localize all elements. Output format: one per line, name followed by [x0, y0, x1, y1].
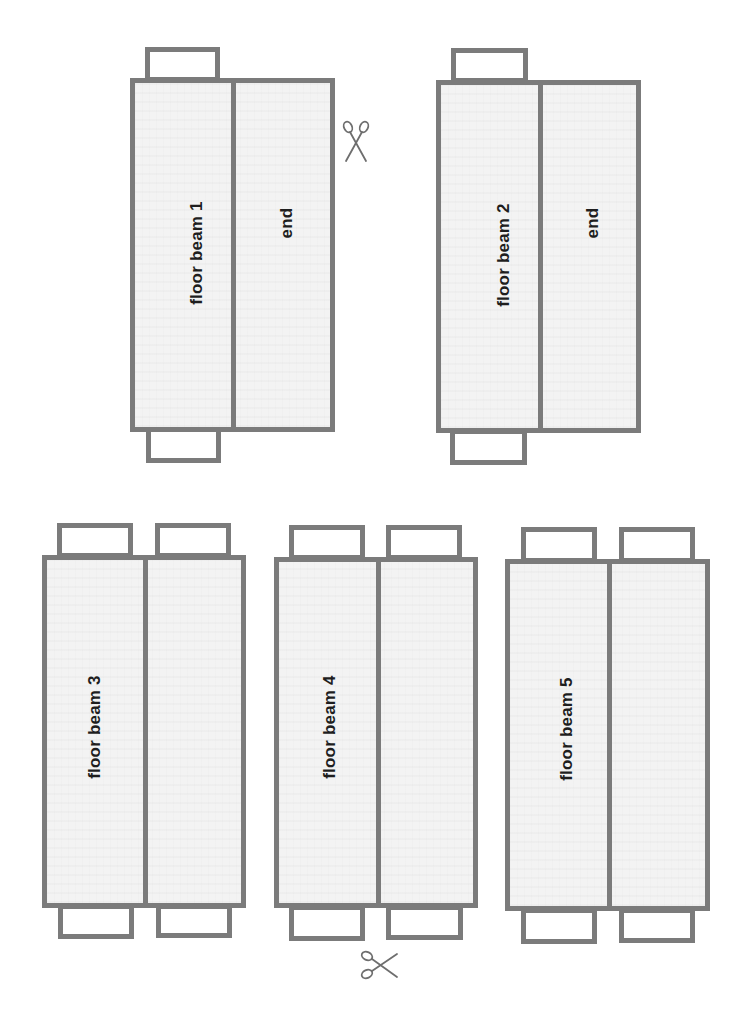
- beam-panel: floor beam 4: [274, 557, 478, 908]
- fold-line: [143, 560, 148, 903]
- glue-tab-bottom-left: [521, 908, 597, 944]
- fold-line: [538, 85, 543, 428]
- glue-tab-bottom-right: [156, 904, 232, 938]
- beam-panel: floor beam 5: [505, 559, 710, 911]
- fold-line: [376, 562, 381, 903]
- glue-tab-bottom-left: [289, 905, 365, 941]
- beam-label: floor beam 5: [557, 654, 577, 804]
- beam-label: floor beam 2: [494, 180, 514, 330]
- glue-tab-top: [451, 48, 528, 83]
- glue-tab-top-right: [386, 525, 462, 560]
- glue-tab-top-right: [619, 527, 695, 563]
- fold-line: [607, 564, 612, 906]
- fold-line: [231, 83, 236, 427]
- glue-tab-bottom: [146, 427, 221, 463]
- scissors-icon: [359, 950, 399, 980]
- end-label: end: [277, 173, 297, 273]
- glue-tab-bottom-left: [58, 904, 134, 939]
- glue-tab-top-left: [57, 523, 133, 558]
- scissors-icon: [341, 120, 371, 164]
- beam-panel: floor beam 1 end: [130, 78, 335, 432]
- beam-label: floor beam 3: [85, 652, 105, 802]
- glue-tab-bottom-right: [386, 905, 463, 940]
- glue-tab-top-left: [289, 525, 365, 560]
- glue-tab-bottom-right: [619, 908, 695, 943]
- beam-label: floor beam 1: [187, 178, 207, 328]
- beam-panel: floor beam 3: [42, 555, 246, 908]
- glue-tab-top-right: [155, 523, 231, 558]
- glue-tab-bottom: [450, 429, 527, 465]
- floor-beam-cutout-diagram: floor beam 1 end floor beam 2 end floor …: [0, 0, 744, 1031]
- end-label: end: [583, 173, 603, 273]
- glue-tab-top: [145, 47, 220, 82]
- glue-tab-top-left: [521, 527, 597, 563]
- beam-label: floor beam 4: [320, 652, 340, 802]
- beam-panel: floor beam 2 end: [436, 80, 641, 433]
